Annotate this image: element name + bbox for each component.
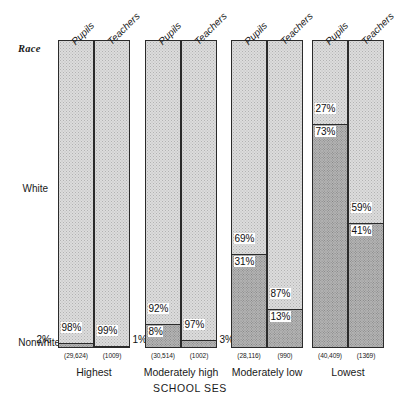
- segment-white: [232, 41, 266, 254]
- sample-size-label: (1369): [342, 352, 390, 359]
- segment-white: [59, 41, 93, 343]
- value-label-white: 27%: [315, 103, 336, 114]
- value-label-white: 99%: [97, 325, 118, 336]
- value-label-nonwhite: 41%: [351, 225, 372, 236]
- y-label-white: White: [0, 183, 48, 194]
- segment-white: [268, 41, 302, 309]
- value-label-white: 69%: [234, 233, 255, 244]
- segment-nonwhite: [232, 254, 266, 348]
- segment-nonwhite: [182, 340, 216, 348]
- bar-moderately-high-teachers: [181, 40, 217, 348]
- bar-highest-teachers: [94, 40, 130, 348]
- value-label-white: 97%: [184, 319, 205, 330]
- category-label-lowest: Lowest: [288, 366, 398, 378]
- sample-size-label: (1002): [175, 352, 223, 359]
- bar-moderately-low-teachers: [267, 40, 303, 348]
- value-label-white: 92%: [148, 303, 169, 314]
- sample-size-label: (1009): [88, 352, 136, 359]
- value-label-nonwhite: 13%: [270, 311, 291, 322]
- segment-nonwhite: [349, 223, 383, 348]
- x-axis-title: SCHOOL SES: [110, 382, 270, 394]
- value-label-white: 59%: [351, 202, 372, 213]
- bar-highest-pupils: [58, 40, 94, 348]
- segment-nonwhite: [59, 343, 93, 348]
- race-legend-label: Race: [18, 43, 41, 54]
- bar-moderately-high-pupils: [145, 40, 181, 348]
- bar-moderately-low-pupils: [231, 40, 267, 348]
- bar-lowest-teachers: [348, 40, 384, 348]
- segment-nonwhite: [313, 124, 347, 348]
- value-label-white: 98%: [61, 322, 82, 333]
- segment-white: [95, 41, 129, 346]
- segment-nonwhite: [95, 346, 129, 348]
- value-label-nonwhite: 8%: [148, 326, 163, 337]
- sample-size-label: (990): [261, 352, 309, 359]
- bar-lowest-pupils: [312, 40, 348, 348]
- segment-white: [146, 41, 180, 324]
- value-label-nonwhite: 73%: [315, 126, 336, 137]
- value-label-nonwhite: 31%: [234, 256, 255, 267]
- segment-white: [182, 41, 216, 340]
- segment-white: [349, 41, 383, 223]
- value-label-white: 87%: [270, 288, 291, 299]
- value-label-nonwhite: 2%: [36, 334, 51, 345]
